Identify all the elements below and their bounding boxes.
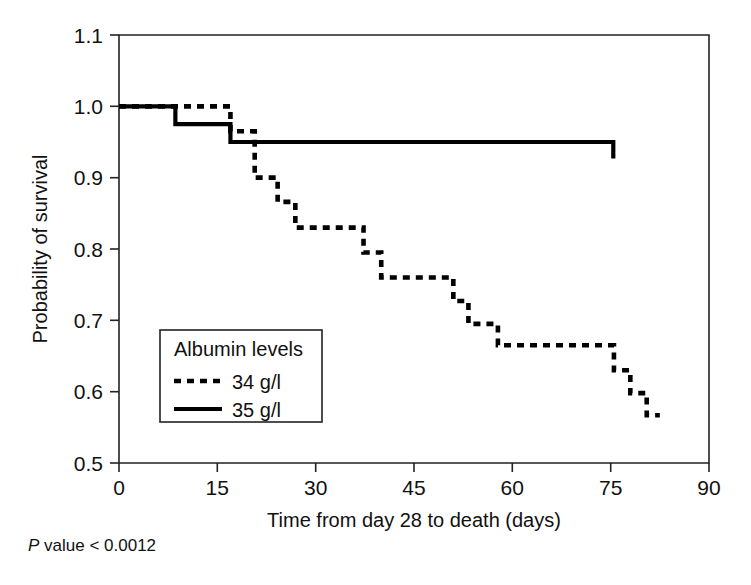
y-tick-label-1.0: 1.0 — [74, 95, 103, 118]
p-value-symbol: P — [28, 536, 40, 555]
y-tick-label-0.7: 0.7 — [74, 309, 103, 332]
x-tick-label-90: 90 — [697, 476, 720, 499]
x-tick-label-30: 30 — [304, 476, 327, 499]
legend: Albumin levels 34 g/l 35 g/l — [160, 330, 322, 422]
y-tick-label-0.5: 0.5 — [74, 452, 103, 475]
x-axis-tick-labels: 0 15 30 45 60 75 90 — [113, 476, 721, 499]
y-axis-ticks — [110, 35, 119, 463]
y-tick-label-1.1: 1.1 — [74, 24, 103, 47]
p-value-rest: value < 0.0012 — [39, 536, 156, 555]
x-tick-label-15: 15 — [206, 476, 229, 499]
p-value-annotation: P value < 0.0012 — [28, 536, 156, 555]
y-axis-tick-labels: 1.1 1.0 0.9 0.8 0.7 0.6 0.5 — [74, 24, 103, 475]
survival-curve-35-g-l — [119, 106, 613, 158]
legend-label-34: 34 g/l — [232, 371, 281, 393]
x-tick-label-45: 45 — [402, 476, 425, 499]
y-tick-label-0.6: 0.6 — [74, 380, 103, 403]
x-axis-ticks — [119, 463, 709, 472]
x-tick-label-60: 60 — [501, 476, 524, 499]
figure-container: 1.1 1.0 0.9 0.8 0.7 0.6 0.5 0 15 30 45 6… — [0, 0, 751, 585]
x-tick-label-75: 75 — [599, 476, 622, 499]
survival-curve-chart: 1.1 1.0 0.9 0.8 0.7 0.6 0.5 0 15 30 45 6… — [0, 0, 751, 585]
x-tick-label-0: 0 — [113, 476, 125, 499]
y-axis-title: Probability of survival — [29, 155, 51, 344]
y-tick-label-0.9: 0.9 — [74, 166, 103, 189]
x-axis-title: Time from day 28 to death (days) — [267, 509, 561, 531]
legend-title: Albumin levels — [174, 338, 303, 360]
y-tick-label-0.8: 0.8 — [74, 238, 103, 261]
legend-label-35: 35 g/l — [232, 399, 281, 421]
